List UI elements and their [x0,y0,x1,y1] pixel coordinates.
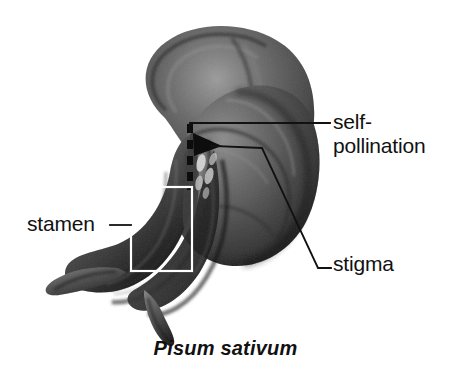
species-caption: Pisum sativum [0,337,451,360]
label-stigma: stigma [333,252,394,276]
label-self-pollination-line2: pollination [333,134,425,157]
pea-flower-illustration [0,0,451,371]
botanical-figure: self-pollination stigma stamen Pisum sat… [0,0,451,371]
label-self-pollination-line1: self- [333,110,372,133]
label-self-pollination: self-pollination [333,110,425,158]
label-stamen: stamen [27,212,95,236]
